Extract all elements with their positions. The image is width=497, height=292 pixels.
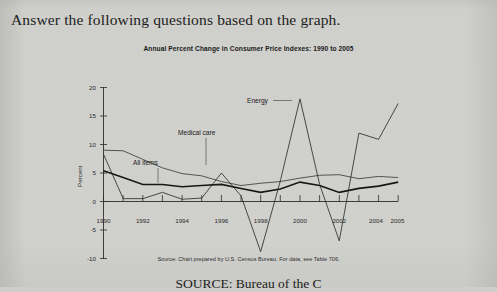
x-tick-label: 2004 bbox=[369, 217, 383, 224]
y-tick-label: 15 bbox=[89, 112, 96, 119]
series-label-all-items: All items bbox=[133, 159, 159, 166]
series-label-medical-care: Medical care bbox=[178, 129, 216, 136]
chart-title: Annual Percent Change in Consumer Price … bbox=[0, 45, 497, 52]
x-tick-label: 1992 bbox=[136, 217, 150, 224]
plot-area: 20 15 10 5 0 -5 -10 Percent bbox=[0, 61, 497, 261]
y-tick-label: -5 bbox=[90, 226, 96, 233]
y-tick-label: 10 bbox=[89, 141, 96, 148]
series-label-energy: Energy bbox=[247, 97, 269, 105]
y-tick-label: 5 bbox=[93, 169, 97, 176]
y-tick-label: 20 bbox=[89, 84, 96, 91]
y-axis-tick-labels: 20 15 10 5 0 -5 -10 bbox=[87, 84, 97, 261]
x-tick-label: 2005 bbox=[391, 217, 405, 224]
y-axis-title: Percent bbox=[76, 165, 83, 187]
series-line-medical-care bbox=[104, 150, 399, 185]
figure-container: Annual Percent Change in Consumer Price … bbox=[0, 45, 497, 277]
page-bottom-caption: SOURCE: Bureau of the C bbox=[0, 276, 497, 292]
x-tick-label: 2000 bbox=[293, 217, 307, 224]
question-prompt: Answer the following questions based on … bbox=[11, 11, 341, 29]
series-line-energy bbox=[104, 99, 399, 252]
x-tick-label: 1996 bbox=[215, 217, 229, 224]
x-tick-label: 1990 bbox=[97, 217, 111, 224]
chart-source-note: Source: Chart prepared by U.S. Census Bu… bbox=[0, 256, 497, 262]
y-tick-label: 0 bbox=[93, 198, 97, 205]
line-chart-svg: 20 15 10 5 0 -5 -10 Percent bbox=[0, 61, 497, 261]
x-axis-ticks bbox=[104, 195, 399, 202]
series-line-all-items bbox=[104, 171, 399, 193]
x-tick-label: 1994 bbox=[175, 217, 189, 224]
x-tick-label: 2002 bbox=[332, 217, 346, 224]
x-tick-label: 1998 bbox=[254, 217, 268, 224]
